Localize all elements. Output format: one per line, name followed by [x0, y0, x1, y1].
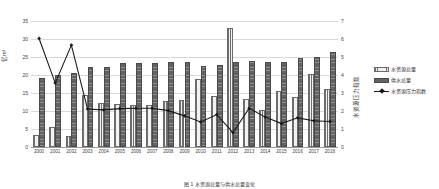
y-axis-left-tick: 30 [11, 37, 28, 42]
y-axis-left-tick: 10 [11, 109, 28, 114]
plot-area [31, 21, 338, 147]
index-line-marker [37, 37, 41, 41]
index-line-marker [118, 107, 122, 111]
legend-item-index[interactable]: 水资源压力指数 [374, 86, 438, 97]
y-axis-left-title: 亿m³ [0, 50, 8, 62]
legend-label: 供水总量 [391, 78, 411, 83]
x-axis-tick: 2018 [321, 150, 339, 155]
y-axis-left-tick: 25 [11, 55, 28, 60]
figure-caption: 图 1 水资源总量与供水总量变化 [0, 180, 439, 187]
index-line-marker [167, 109, 171, 113]
index-line-marker [86, 107, 90, 111]
index-line-path [39, 38, 330, 132]
index-line-marker [150, 106, 154, 110]
index-line-marker [102, 108, 106, 112]
water-resource-chart: 35 30 25 20 15 10 5 0 7 6 5 4 3 2 1 0 亿m… [0, 0, 439, 189]
legend-item-resource[interactable]: 水资源总量 [374, 64, 438, 75]
legend-item-supply[interactable]: 供水总量 [374, 75, 438, 86]
index-line-marker [183, 114, 187, 118]
y-axis-left-tick: 15 [11, 91, 28, 96]
index-line-marker [296, 116, 300, 120]
y-axis-left-tick: 5 [11, 127, 28, 132]
y-axis-right-title: 水资源压力指数 [352, 76, 360, 118]
y-axis-right-tick: 7 [341, 19, 355, 24]
y-axis-right-tick: 1 [341, 127, 355, 132]
index-line-marker [134, 106, 138, 110]
index-line-marker [199, 120, 203, 124]
index-line-marker [312, 119, 316, 123]
line-marker-swatch-icon [374, 89, 389, 95]
legend-label: 水资源压力指数 [391, 89, 426, 94]
y-axis-left-tick: 0 [11, 145, 28, 150]
legend: 水资源总量 供水总量 水资源压力指数 [374, 64, 438, 97]
solid-bar-swatch-icon [374, 78, 389, 83]
y-axis-right-tick: 5 [341, 55, 355, 60]
legend-label: 水资源总量 [391, 67, 416, 72]
index-line-marker [328, 120, 332, 124]
y-axis-left-tick: 20 [11, 73, 28, 78]
x-axis-line [31, 147, 338, 148]
y-axis-right-tick: 0 [341, 145, 355, 150]
index-line-marker [53, 81, 57, 85]
y-axis-left-tick: 35 [11, 19, 28, 24]
y-axis-right-tick: 6 [341, 37, 355, 42]
index-line-marker [70, 43, 74, 47]
index-line-marker [280, 122, 284, 126]
index-line-series [31, 21, 338, 147]
hatched-bar-swatch-icon [374, 67, 389, 72]
